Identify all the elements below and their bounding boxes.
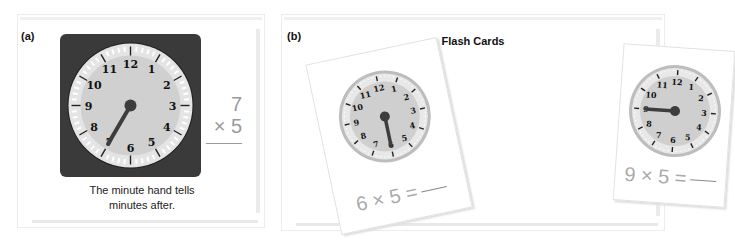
svg-text:10: 10	[86, 79, 102, 92]
panel-a-label: (a)	[21, 30, 34, 42]
answer-blank	[421, 186, 447, 192]
svg-text:2: 2	[163, 79, 171, 92]
caption-line: The minute hand tells	[18, 183, 266, 198]
svg-text:5: 5	[148, 136, 156, 149]
vertical-multiplication: 7 × 5	[202, 93, 242, 144]
svg-text:6: 6	[127, 142, 135, 155]
svg-text:9: 9	[85, 100, 93, 113]
flash-cards-title: Flash Cards	[282, 35, 664, 47]
panel-shadow	[32, 220, 258, 223]
caption-line: minutes after.	[18, 198, 266, 213]
analog-clock-icon: 121234567891011	[308, 44, 462, 189]
svg-text:3: 3	[701, 108, 708, 118]
svg-text:12: 12	[123, 58, 138, 71]
svg-text:8: 8	[646, 119, 653, 129]
svg-text:7: 7	[656, 130, 662, 140]
clock-frame: 121234567891011	[60, 34, 201, 177]
svg-text:1: 1	[688, 82, 694, 92]
analog-clock-icon: 121234567891011	[616, 52, 733, 169]
flash-card[interactable]: 121234567891011 9 × 5 =	[613, 43, 735, 207]
equation-text: 6 × 5 =	[354, 181, 419, 215]
equation-text: 9 × 5 =	[624, 163, 688, 189]
caption: The minute hand tells minutes after.	[18, 183, 266, 213]
analog-clock-icon: 121234567891011	[60, 34, 201, 177]
answer-line	[206, 143, 242, 144]
svg-text:12: 12	[671, 77, 683, 88]
svg-text:4: 4	[163, 121, 171, 134]
panel-a: (a) 121234567891011 7 × 5 The minute han…	[17, 14, 265, 228]
svg-text:11: 11	[102, 63, 117, 76]
svg-text:5: 5	[685, 132, 691, 142]
svg-text:11: 11	[656, 80, 668, 91]
flash-card[interactable]: 121234567891011 6 × 5 =	[305, 37, 472, 235]
panel-b: (b) Flash Cards 121234567891011 6 × 5 = …	[281, 14, 665, 231]
svg-text:4: 4	[696, 122, 703, 132]
multiplicand: 7	[202, 93, 242, 115]
svg-text:1: 1	[148, 63, 156, 76]
svg-text:8: 8	[90, 121, 98, 134]
answer-blank	[690, 179, 716, 182]
svg-text:3: 3	[169, 100, 177, 113]
svg-text:6: 6	[670, 135, 677, 145]
svg-text:10: 10	[645, 89, 657, 100]
svg-text:2: 2	[698, 93, 704, 103]
multiplier: × 5	[202, 115, 242, 137]
